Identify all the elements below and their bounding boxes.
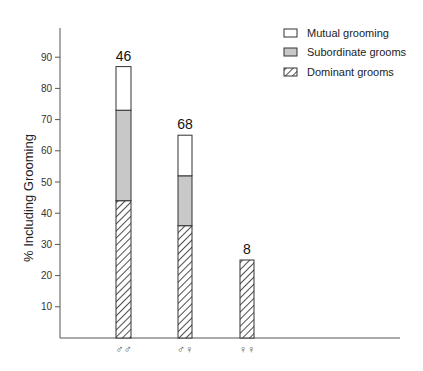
legend-label-subordinate: Subordinate grooms: [307, 46, 407, 58]
legend-label-dominant: Dominant grooms: [307, 66, 394, 78]
legend: Mutual grooming Subordinate grooms Domin…: [284, 27, 407, 78]
y-tick-labels: 10 20 30 40 50 60 70 80 90: [41, 52, 53, 312]
y-tick-label: 60: [41, 145, 53, 156]
segment-dominant: [240, 260, 254, 338]
bar-count-label: 68: [177, 116, 193, 132]
legend-swatch-subordinate: [284, 48, 297, 56]
x-label-female-female: ♀♀: [239, 343, 256, 355]
segment-dominant: [116, 201, 131, 338]
y-tick-label: 90: [41, 52, 53, 63]
segment-mutual: [178, 135, 192, 176]
y-tick-label: 50: [41, 177, 53, 188]
legend-swatch-mutual: [284, 29, 297, 37]
legend-swatch-dominant: [284, 68, 297, 76]
segment-subordinate: [178, 176, 192, 226]
y-ticks: [55, 57, 60, 307]
y-tick-label: 70: [41, 114, 53, 125]
bar-count-label: 8: [243, 241, 251, 257]
segment-dominant: [178, 226, 192, 338]
y-tick-label: 20: [41, 270, 53, 281]
segment-mutual: [116, 67, 131, 111]
legend-label-mutual: Mutual grooming: [307, 27, 389, 39]
x-label-male-female: ♂♀: [177, 343, 194, 355]
y-axis-label: % Including Grooming: [21, 134, 36, 262]
y-tick-label: 80: [41, 83, 53, 94]
bar-female-female: 8: [240, 241, 254, 338]
y-tick-label: 40: [41, 208, 53, 219]
x-label-male-male: ♂♂: [115, 343, 132, 355]
bar-male-female: 68: [177, 116, 193, 338]
bar-male-male: 46: [116, 48, 132, 338]
y-tick-label: 30: [41, 239, 53, 250]
segment-subordinate: [116, 110, 131, 201]
bar-count-label: 46: [116, 48, 132, 64]
chart-canvas: 10 20 30 40 50 60 70 80 90 % Including G…: [0, 0, 423, 371]
y-tick-label: 10: [41, 301, 53, 312]
